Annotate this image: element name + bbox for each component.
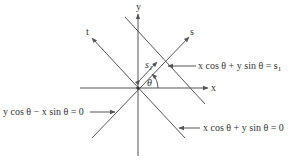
radon-transform-geometry-diagram: y x s t s1 θ x cos θ + y sin θ = s1 y co… xyxy=(0,0,292,162)
equation-line-zero: x cos θ + y sin θ = 0 xyxy=(203,122,284,133)
t-axis-label: t xyxy=(86,26,89,37)
s-axis-label: s xyxy=(190,26,194,37)
theta-label: θ xyxy=(147,77,152,88)
x-axis-label: x xyxy=(211,82,216,93)
s1-label: s1 xyxy=(145,59,152,72)
equation-t-axis: y cos θ − x sin θ = 0 xyxy=(3,106,84,117)
origin-point xyxy=(136,86,139,89)
equation-line-s1: x cos θ + y sin θ = s1 xyxy=(198,60,282,73)
theta-arc xyxy=(152,74,158,88)
y-axis-label: y xyxy=(136,1,141,12)
